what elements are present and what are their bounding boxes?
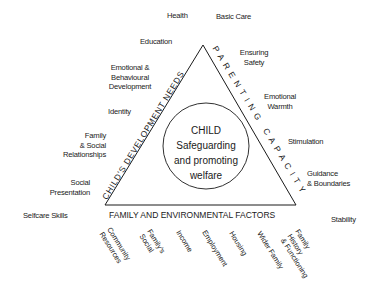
need-emotional-behavioural: Emotional & Behavioural Development bbox=[101, 63, 159, 92]
need-health: Health bbox=[167, 11, 188, 21]
parenting-guidance: Guidance & Boundaries bbox=[307, 169, 350, 188]
parenting-stability: Stability bbox=[331, 215, 356, 225]
need-family-social: Family & Social Relationships bbox=[40, 131, 106, 160]
need-identity: Identity bbox=[108, 107, 131, 117]
center-title: CHILD bbox=[166, 123, 246, 138]
center-line-3: welfare bbox=[166, 168, 246, 183]
center-line-2: and promoting bbox=[166, 153, 246, 168]
need-education: Education bbox=[140, 37, 172, 47]
parenting-basic-care: Basic Care bbox=[216, 12, 251, 22]
parenting-stimulation: Stimulation bbox=[288, 137, 323, 147]
parenting-ensuring-safety: Ensuring Safety bbox=[234, 48, 274, 67]
center-line-1: Safeguarding bbox=[166, 138, 246, 153]
need-selfcare: Selfcare Skills bbox=[23, 211, 68, 221]
side-title-family-environmental: FAMILY AND ENVIRONMENTAL FACTORS bbox=[109, 210, 275, 220]
need-social-presentation: Social Presentation bbox=[30, 178, 90, 197]
center-label: CHILD Safeguarding and promoting welfare bbox=[166, 123, 246, 183]
parenting-emotional-warmth: Emotional Warmth bbox=[258, 92, 302, 111]
